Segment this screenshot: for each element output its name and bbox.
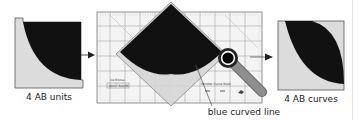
- ruler-subtext: QUILT RULER: [109, 84, 128, 88]
- ruler-assembly: Ice Bonus QUILT RULER Wonder Curve Ruler: [97, 2, 262, 106]
- label-blue-curved-line: blue curved line: [208, 107, 281, 117]
- ruler-corner-text: Wonder Curve Ruler: [201, 82, 232, 86]
- divider-line: [352, 0, 353, 120]
- quilting-curve-diagram: 4 AB units: [0, 0, 359, 120]
- label-ab-curves: 4 AB curves: [284, 94, 338, 104]
- ab-unit-block: [15, 18, 83, 88]
- arrow-icon: [81, 52, 95, 59]
- ab-curve-block: [278, 21, 344, 90]
- ruler-logo: Ice Bonus: [110, 78, 125, 82]
- label-ab-units: 4 AB units: [26, 92, 72, 102]
